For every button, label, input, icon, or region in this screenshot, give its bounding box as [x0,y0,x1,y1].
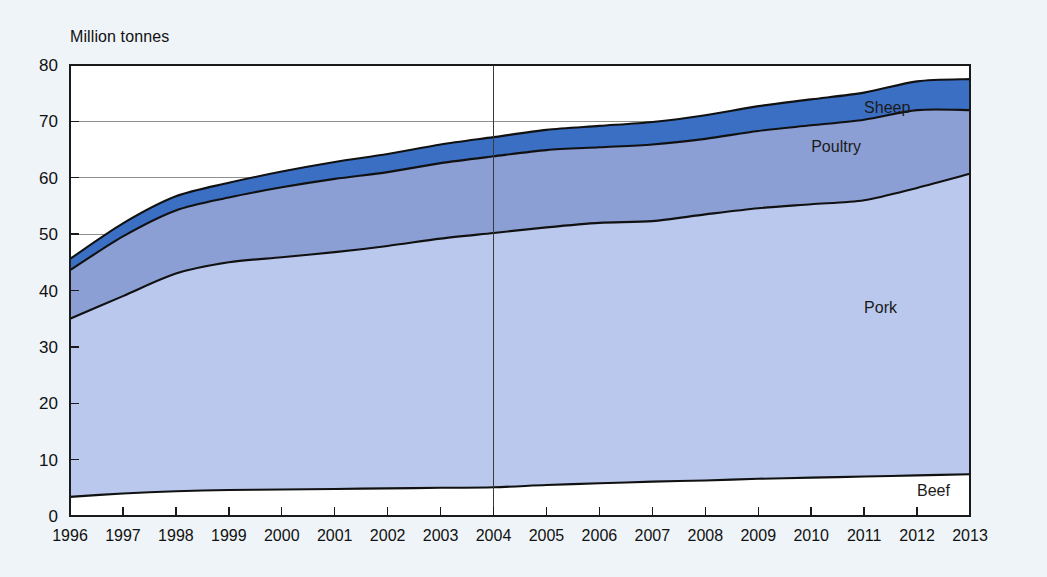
x-tick-label-1998: 1998 [158,527,194,544]
y-tick-label-50: 50 [39,225,58,244]
y-tick-label-80: 80 [39,56,58,75]
series-label-pork: Pork [864,299,898,316]
x-tick-label-2002: 2002 [370,527,406,544]
x-tick-label-2013: 2013 [952,527,988,544]
x-tick-label-2012: 2012 [899,527,935,544]
x-tick-label-1996: 1996 [52,527,88,544]
y-tick-label-10: 10 [39,451,58,470]
x-tick-label-2003: 2003 [423,527,459,544]
x-tick-label-2001: 2001 [317,527,353,544]
x-tick-label-2006: 2006 [582,527,618,544]
x-tick-label-2010: 2010 [793,527,829,544]
x-tick-label-2004: 2004 [476,527,512,544]
y-tick-label-0: 0 [49,507,58,526]
series-label-beef: Beef [917,482,950,499]
y-tick-label-30: 30 [39,338,58,357]
y-tick-label-60: 60 [39,169,58,188]
x-tick-label-2000: 2000 [264,527,300,544]
y-tick-label-70: 70 [39,112,58,131]
x-tick-label-2011: 2011 [847,527,882,544]
y-tick-label-20: 20 [39,394,58,413]
stacked-area-chart: 01020304050607080 1996199719981999200020… [0,0,1047,577]
x-tick-label-1997: 1997 [105,527,141,544]
chart-container: Million tonnes 01020304050607080 1996199… [0,0,1047,577]
x-tick-label-1999: 1999 [211,527,247,544]
x-tick-label-2008: 2008 [687,527,723,544]
x-tick-label-2005: 2005 [529,527,565,544]
y-tick-label-40: 40 [39,282,58,301]
x-tick-label-2007: 2007 [635,527,671,544]
series-label-sheep: Sheep [864,99,910,116]
series-label-poultry: Poultry [811,138,861,155]
x-axis-tick-labels: 1996199719981999200020012002200320042005… [52,527,988,544]
x-tick-label-2009: 2009 [740,527,776,544]
y-axis-tick-labels: 01020304050607080 [39,56,58,526]
